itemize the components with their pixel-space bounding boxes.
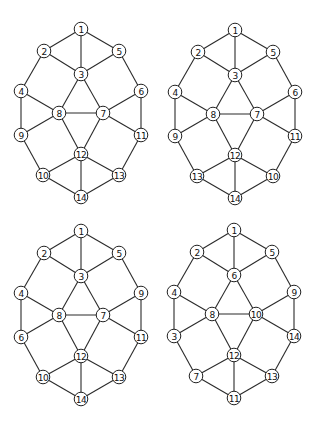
node-11: 11 [134,330,148,344]
node-8: 8 [52,106,66,120]
node-label: 5 [116,47,121,57]
node-label: 5 [269,248,274,258]
node-label: 10 [38,171,49,181]
node-12: 12 [74,349,88,363]
node-14: 14 [228,191,242,205]
node-label: 13 [114,171,124,181]
node-7: 7 [250,107,264,121]
node-label: 6 [18,333,24,343]
node-label: 13 [267,372,277,382]
node-label: 7 [100,109,105,119]
node-label: 14 [76,395,87,405]
node-4: 4 [168,85,182,99]
node-label: 6 [231,271,237,281]
node-label: 12 [230,151,240,161]
node-label: 10 [251,310,262,320]
node-label: 1 [78,227,83,237]
node-label: 2 [195,48,200,58]
node-label: 8 [56,109,62,119]
node-13: 13 [190,169,204,183]
node-6: 6 [14,330,28,344]
node-label: 7 [100,311,105,321]
node-11: 11 [288,129,302,143]
node-label: 11 [136,131,146,141]
node-3: 3 [74,67,88,81]
node-10: 10 [36,168,50,182]
node-label: 4 [172,88,178,98]
graph-labelings-figure: 1253468791112101314125346879111213101412… [0,0,319,429]
node-label: 4 [171,288,177,298]
node-13: 13 [112,370,126,384]
node-label: 13 [114,373,124,383]
node-8: 8 [205,307,219,321]
node-4: 4 [14,286,28,300]
node-12: 12 [227,348,241,362]
node-8: 8 [206,107,220,121]
node-label: 10 [38,373,49,383]
node-label: 5 [116,249,121,259]
node-label: 2 [194,248,199,258]
node-1: 1 [227,223,241,237]
graph-bottom-left: 1253498761112101314 [14,224,148,406]
node-label: 4 [18,87,24,97]
node-14: 14 [74,392,88,406]
node-11: 11 [227,391,241,405]
node-label: 1 [231,226,236,236]
node-12: 12 [228,148,242,162]
node-13: 13 [265,369,279,383]
node-2: 2 [190,245,204,259]
node-4: 4 [167,285,181,299]
node-label: 13 [192,172,202,182]
node-label: 14 [76,193,87,203]
node-2: 2 [191,45,205,59]
node-10: 10 [36,370,50,384]
node-label: 1 [232,26,237,36]
node-9: 9 [14,128,28,142]
node-label: 3 [78,70,83,80]
node-8: 8 [52,308,66,322]
node-7: 7 [96,106,110,120]
node-9: 9 [134,286,148,300]
node-7: 7 [96,308,110,322]
node-label: 8 [56,311,62,321]
node-10: 10 [249,307,263,321]
node-11: 11 [134,128,148,142]
node-5: 5 [265,245,279,259]
node-label: 2 [41,249,46,259]
node-label: 1 [78,25,83,35]
node-label: 14 [230,194,241,204]
node-label: 11 [229,394,239,404]
graph-top-right: 1253468791112131014 [168,23,302,205]
node-label: 3 [171,332,176,342]
node-label: 8 [210,110,216,120]
node-label: 4 [18,289,24,299]
node-label: 7 [254,110,259,120]
node-9: 9 [168,129,182,143]
node-label: 9 [138,289,144,299]
node-label: 5 [270,48,275,58]
node-label: 8 [209,310,215,320]
node-label: 6 [138,87,144,97]
node-10: 10 [266,169,280,183]
node-12: 12 [74,147,88,161]
node-2: 2 [37,246,51,260]
node-1: 1 [74,22,88,36]
node-6: 6 [134,84,148,98]
node-label: 9 [18,131,24,141]
node-label: 9 [172,132,178,142]
node-6: 6 [288,85,302,99]
node-3: 3 [74,269,88,283]
node-6: 6 [227,268,241,282]
node-1: 1 [74,224,88,238]
node-label: 3 [78,272,83,282]
node-label: 11 [136,333,146,343]
node-5: 5 [266,45,280,59]
node-3: 3 [228,68,242,82]
node-label: 14 [289,332,300,342]
graph-bottom-right: 1256498103141271311 [167,223,301,405]
node-13: 13 [112,168,126,182]
node-14: 14 [74,190,88,204]
node-label: 2 [41,47,46,57]
node-5: 5 [112,246,126,260]
node-1: 1 [228,23,242,37]
